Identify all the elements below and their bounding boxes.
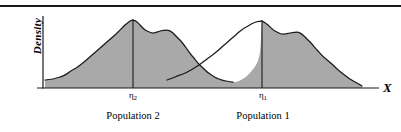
group-label-population-2: Population 2	[83, 110, 183, 121]
x-axis-label: X	[383, 80, 392, 96]
group-label-population-1: Population 1	[213, 110, 313, 121]
tick-label-eta2-subscript: 2	[134, 94, 138, 102]
figure-container: Density X η2 η1 Population 2 Population …	[0, 0, 401, 132]
tick-label-eta1-subscript: 1	[264, 94, 268, 102]
tick-label-eta2: η2	[120, 90, 146, 102]
tick-label-eta1: η1	[250, 90, 276, 102]
density-plot	[0, 0, 401, 132]
y-axis-label: Density	[31, 7, 43, 65]
